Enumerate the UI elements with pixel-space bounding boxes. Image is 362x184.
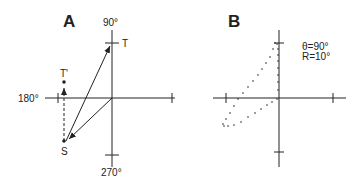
r-label: R=10°: [302, 51, 330, 62]
point-t-prime: [62, 80, 66, 84]
point-label-s: S: [61, 146, 68, 157]
arrow-s-to-t: [66, 46, 110, 141]
point-label-t: T: [122, 38, 128, 49]
dotted-trajectory: [222, 42, 279, 127]
panel-a: A 90° 180° 270° T T' S: [18, 12, 175, 178]
point-label-t-prime: T': [60, 68, 68, 79]
axis-label-270: 270°: [101, 167, 122, 178]
arrow-origin-to-s: [69, 98, 112, 139]
axis-label-180: 180°: [18, 93, 39, 104]
axis-label-90: 90°: [103, 17, 118, 28]
panel-a-label: A: [63, 12, 75, 31]
figure-canvas: A 90° 180° 270° T T' S B θ=90° R=10°: [0, 0, 362, 184]
figure: A 90° 180° 270° T T' S B θ=90° R=10°: [0, 0, 362, 184]
point-s: [62, 139, 66, 143]
panel-b: B θ=90° R=10°: [213, 12, 346, 167]
panel-b-label: B: [228, 12, 240, 31]
